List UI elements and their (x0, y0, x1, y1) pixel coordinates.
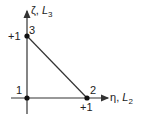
vertical-tick-label: +1 (8, 30, 21, 42)
zeta-axis-label: ζ, L3 (31, 4, 53, 19)
horizontal-tick-label: +1 (80, 101, 93, 113)
triangle-hypotenuse (27, 36, 87, 98)
triangle-element-diagram: 1 2 3 +1 +1 ζ, L3 η, L2 (0, 0, 145, 122)
node-2 (84, 95, 89, 100)
node-1-label: 1 (16, 84, 22, 96)
node-1 (24, 95, 29, 100)
eta-axis-label: η, L2 (110, 91, 133, 106)
node-3-label: 3 (29, 24, 35, 36)
node-2-label: 2 (90, 84, 96, 96)
